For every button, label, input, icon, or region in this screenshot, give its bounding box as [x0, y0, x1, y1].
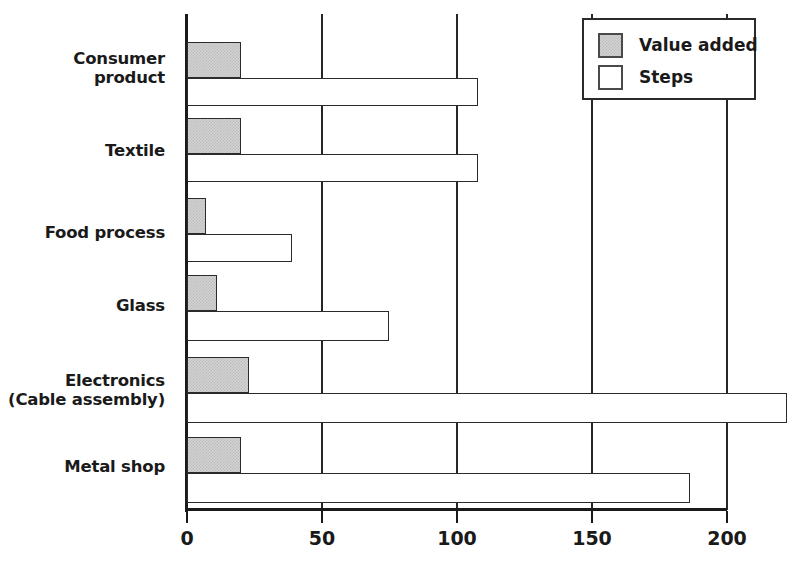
x-tick-label-150: 150 — [572, 527, 612, 549]
bar-steps-glass — [187, 311, 389, 341]
legend-swatch-steps-icon — [598, 65, 623, 90]
bar-steps-textile — [187, 154, 478, 182]
bar-value-added-electronics — [187, 357, 249, 393]
bar-steps-electronics — [187, 393, 787, 423]
x-tick-100 — [456, 511, 458, 523]
bar-value-added-glass — [187, 275, 217, 311]
x-tick-150 — [591, 511, 593, 523]
legend-item-value-added: Value added — [598, 29, 754, 61]
chart-legend: Value added Steps — [582, 18, 756, 100]
legend-swatch-value-added-icon — [598, 33, 623, 58]
legend-label-value-added: Value added — [639, 35, 758, 55]
legend-label-steps: Steps — [639, 67, 693, 87]
legend-item-steps: Steps — [598, 61, 754, 93]
bar-value-added-textile — [187, 118, 241, 154]
x-tick-200 — [726, 511, 728, 523]
x-tick-0 — [186, 511, 188, 523]
bar-value-added-consumer-product — [187, 42, 241, 78]
category-label-glass: Glass — [116, 296, 165, 315]
x-tick-50 — [321, 511, 323, 523]
category-label-metal-shop: Metal shop — [64, 457, 165, 476]
x-tick-label-100: 100 — [437, 527, 477, 549]
category-label-food-process: Food process — [45, 223, 165, 242]
x-tick-label-50: 50 — [309, 527, 335, 549]
bar-steps-food-process — [187, 234, 292, 262]
category-label-consumer-product: Consumer product — [0, 49, 165, 87]
x-tick-label-200: 200 — [707, 527, 747, 549]
category-label-textile: Textile — [105, 141, 165, 160]
bar-value-added-metal-shop — [187, 437, 241, 473]
bar-steps-consumer-product — [187, 78, 478, 106]
bar-value-added-food-process — [187, 198, 206, 234]
bar-chart: 0 50 100 150 200 Consumer product Textil… — [0, 0, 798, 575]
bar-steps-metal-shop — [187, 473, 690, 503]
x-tick-label-0: 0 — [180, 527, 193, 549]
category-label-electronics: Electronics (Cable assembly) — [8, 371, 165, 409]
